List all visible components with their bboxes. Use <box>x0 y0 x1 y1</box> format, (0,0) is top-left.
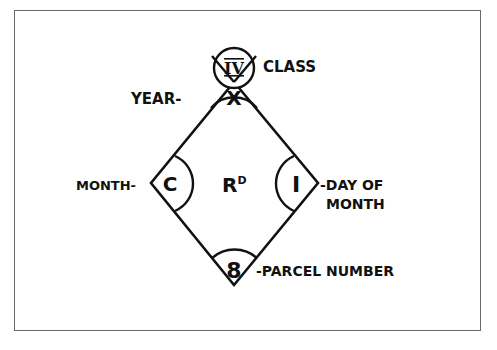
year-value: X <box>226 86 242 110</box>
day-label-line2: MONTH <box>326 196 385 212</box>
month-value: C <box>163 172 178 196</box>
day-label-line1: -DAY OF <box>320 177 383 193</box>
class-value: IV <box>224 59 244 78</box>
year-label: YEAR- <box>130 90 182 108</box>
parcel-label: -PARCEL NUMBER <box>256 263 394 279</box>
parcel-value: 8 <box>226 258 241 283</box>
center-label: RD <box>222 173 247 197</box>
parcel-marking-diagram: IV X C I 8 RD CLASS YEAR- MONTH- -DAY OF… <box>0 0 497 350</box>
month-label: MONTH- <box>76 178 136 193</box>
class-label: CLASS <box>263 58 316 76</box>
parcel-arc <box>212 249 257 258</box>
day-value: I <box>292 172 300 197</box>
month-arc <box>175 156 193 211</box>
